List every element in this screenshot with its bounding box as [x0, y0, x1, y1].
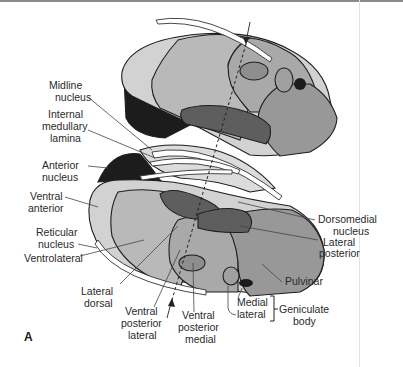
label-medial: Medial	[237, 296, 268, 308]
label-anterior-1: Anterior	[42, 159, 79, 171]
label-vpm-2: posterior	[178, 321, 219, 333]
label-lateral: lateral	[237, 308, 266, 320]
label-va-1: Ventral	[30, 190, 63, 202]
lateral-geniculate	[239, 279, 253, 287]
label-midline-2: nucleus	[55, 91, 91, 103]
label-dm-1: Dorsomedial	[318, 213, 377, 225]
label-pulvinar: Pulvinar	[285, 275, 323, 287]
label-iml-3: lamina	[50, 132, 81, 144]
medial-geniculate	[223, 267, 239, 285]
label-reticular-2: nucleus	[38, 238, 74, 250]
label-vpm-1: Ventral	[182, 309, 215, 321]
label-va-2: anterior	[28, 202, 64, 214]
lateral-posterior-band	[198, 208, 252, 232]
label-reticular-1: Reticular	[36, 226, 78, 238]
label-iml-1: Internal	[48, 108, 83, 120]
label-vpl-3: lateral	[128, 329, 157, 341]
label-ld-1: Lateral	[81, 285, 113, 297]
upper-oval	[240, 62, 268, 80]
label-ld-2: dorsal	[84, 297, 113, 309]
panel-label: A	[24, 330, 33, 344]
label-geniculate-2: body	[293, 315, 317, 327]
upper-black-dot	[294, 78, 306, 90]
label-iml-2: medullary	[42, 120, 88, 132]
label-vpm-3: medial	[185, 333, 216, 345]
label-vpl-1: Ventral	[125, 305, 158, 317]
arrow-bottom-icon	[168, 298, 175, 307]
upper-thalamus	[122, 18, 337, 156]
thalamus-diagram: Midline nucleus Internal medullary lamin…	[0, 0, 403, 367]
label-anterior-2: nucleus	[42, 171, 78, 183]
geniculate-bracket	[270, 296, 274, 321]
label-vpl-2: posterior	[121, 317, 162, 329]
label-ventrolateral: Ventrolateral	[24, 252, 83, 264]
label-lp-2: posterior	[319, 247, 360, 259]
label-geniculate-1: Geniculate	[279, 303, 329, 315]
label-midline-1: Midline	[49, 79, 82, 91]
upper-geniculate	[275, 68, 293, 92]
